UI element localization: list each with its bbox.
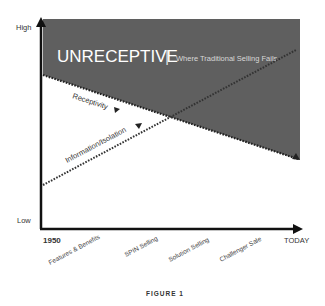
- zone-title: UNRECEPTIVE: [57, 47, 178, 66]
- zone-separator: |: [165, 48, 169, 65]
- receptivity-diagram: UNRECEPTIVE | Where Traditional Selling …: [0, 0, 325, 306]
- receptivity-down-arrow: [114, 107, 120, 113]
- zone-subtitle: Where Traditional Selling Fails: [176, 54, 278, 63]
- x-axis-arrow-icon: [293, 224, 303, 234]
- unreceptive-zone: [43, 19, 300, 160]
- x-start-label: 1950: [43, 236, 61, 245]
- figure-caption: FIGURE 1: [146, 290, 184, 297]
- era-label: SPIN Selling: [123, 234, 159, 258]
- information-down-arrow: [135, 123, 142, 129]
- era-label: Solution Selling: [167, 235, 211, 263]
- y-high-label: High: [16, 23, 31, 32]
- era-label: Challenger Sale: [218, 235, 263, 264]
- x-end-label: TODAY: [284, 236, 309, 245]
- y-low-label: Low: [17, 216, 31, 225]
